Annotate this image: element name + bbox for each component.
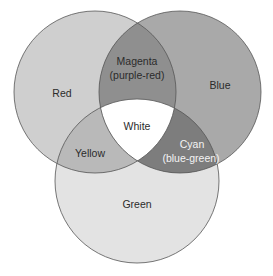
label-red: Red <box>52 87 71 99</box>
label-yellow: Yellow <box>75 147 105 159</box>
label-white: White <box>124 120 151 132</box>
color-venn-diagram: Red Blue Green Magenta (purple-red) Whit… <box>0 0 273 276</box>
label-magenta-sub: (purple-red) <box>110 69 165 81</box>
label-blue: Blue <box>209 79 230 91</box>
label-green: Green <box>122 198 151 210</box>
label-cyan: Cyan <box>180 138 205 150</box>
label-cyan-sub: (blue-green) <box>162 152 219 164</box>
label-magenta: Magenta <box>117 55 158 67</box>
